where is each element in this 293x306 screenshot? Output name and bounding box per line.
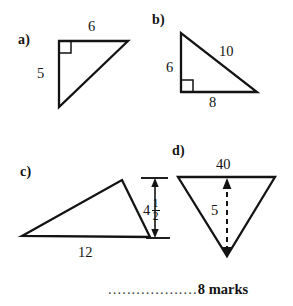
figure-c-outline [22, 180, 150, 237]
figure-c-triangle [22, 180, 150, 237]
figure-a-part-label: a) [18, 33, 30, 47]
figure-c-height-label: 4 1 2 [143, 198, 160, 223]
figure-c-height-fraction: 1 2 [152, 198, 160, 223]
figure-c-part-label: c) [20, 165, 31, 179]
figure-c-height-mixed-number: 4 1 2 [143, 198, 160, 223]
figure-a-left-label: 5 [37, 66, 44, 81]
figure-c-base-label: 12 [78, 245, 93, 260]
figure-a-right-angle-icon [59, 41, 71, 53]
figure-d-base-label: 40 [216, 157, 231, 172]
figure-c-height-whole: 4 [143, 203, 150, 218]
figure-d-part-label: d) [172, 144, 185, 158]
figure-c-arrowhead-down-icon [151, 229, 158, 238]
footer-marks: ...................8 marks [108, 281, 248, 297]
figure-b-bottom-label: 8 [209, 95, 216, 110]
figure-c-height-numerator: 1 [152, 198, 160, 210]
figure-b-triangle [181, 33, 257, 92]
figure-a-outline [59, 41, 128, 107]
footer-marks-text: 8 marks [198, 281, 248, 297]
figure-c-height-denominator: 2 [152, 210, 160, 223]
figure-b-part-label: b) [152, 13, 165, 27]
figure-b-left-label: 6 [166, 60, 173, 75]
figure-d-arrowhead-up-icon [223, 178, 232, 189]
figure-d-height-dimension [223, 178, 232, 258]
figures-canvas [0, 0, 293, 306]
figure-b-hypotenuse-label: 10 [219, 44, 234, 59]
figure-c-arrowhead-up-icon [151, 178, 158, 187]
figure-b-right-angle-icon [181, 80, 193, 92]
worksheet-page: a) 6 5 b) 6 10 8 c) 12 4 1 2 d) 40 5 ...… [0, 0, 293, 306]
figure-d-height-label: 5 [211, 203, 218, 218]
footer-dots: ................... [108, 281, 198, 297]
figure-a-triangle [59, 41, 128, 107]
figure-a-top-label: 6 [88, 19, 95, 34]
